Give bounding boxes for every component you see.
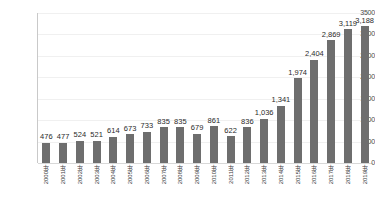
x-label-slot: 2007年 [155, 165, 172, 205]
bar-slot[interactable]: 2,869 [323, 13, 340, 163]
x-label-slot: 2011年 [222, 165, 239, 205]
x-label-slot: 2005年 [122, 165, 139, 205]
bar-slot[interactable]: 673 [122, 13, 139, 163]
x-axis-tick-label: 2007年 [161, 165, 167, 184]
x-label-slot: 2008年 [172, 165, 189, 205]
x-label-slot: 2004年 [105, 165, 122, 205]
x-axis-tick-label: 2013年 [261, 165, 267, 184]
x-label-slot: 2006年 [139, 165, 156, 205]
x-label-slot: 2014年 [273, 165, 290, 205]
x-label-slot: 2010年 [206, 165, 223, 205]
bar[interactable] [42, 143, 50, 163]
bar-value-label: 679 [191, 124, 204, 132]
x-axis-tick-label: 2016年 [311, 165, 317, 184]
bar[interactable] [227, 136, 235, 163]
x-axis-tick-label: 2008年 [177, 165, 183, 184]
x-label-slot: 2012年 [239, 165, 256, 205]
bar-slot[interactable]: 477 [55, 13, 72, 163]
bar[interactable] [327, 40, 335, 163]
bar-value-label: 476 [40, 133, 53, 141]
bar[interactable] [243, 127, 251, 163]
bar-value-label: 2,404 [305, 50, 324, 58]
bar[interactable] [344, 29, 352, 163]
bar[interactable] [277, 106, 285, 163]
bar-value-label: 3,188 [355, 17, 374, 25]
x-axis-tick-label: 2011年 [228, 165, 234, 184]
x-label-slot: 2001年 [55, 165, 72, 205]
bar-value-label: 2,869 [322, 31, 341, 39]
bar-value-label: 614 [107, 127, 120, 135]
bar-slot[interactable]: 835 [155, 13, 172, 163]
bar-slot[interactable]: 1,036 [256, 13, 273, 163]
bar-slot[interactable]: 2,404 [306, 13, 323, 163]
x-label-slot: 2003年 [88, 165, 105, 205]
bar-value-label: 524 [74, 131, 87, 139]
bar-slot[interactable]: 1,974 [289, 13, 306, 163]
x-label-slot: 2000年 [38, 165, 55, 205]
x-axis-tick-label: 2000年 [43, 165, 49, 184]
x-label-slot: 2015年 [289, 165, 306, 205]
bar[interactable] [193, 134, 201, 163]
bar[interactable] [260, 119, 268, 163]
bar-value-label: 836 [241, 118, 254, 126]
bar[interactable] [176, 127, 184, 163]
x-label-slot: 2019年 [356, 165, 373, 205]
bar-value-label: 835 [174, 118, 187, 126]
bar-slot[interactable]: 1,341 [273, 13, 290, 163]
bar-value-label: 521 [90, 131, 103, 139]
bar-slot[interactable]: 614 [105, 13, 122, 163]
bar[interactable] [76, 141, 84, 163]
x-axis-tick-label: 2019年 [362, 165, 368, 184]
bar-slot[interactable]: 3,119 [340, 13, 357, 163]
bar[interactable] [143, 132, 151, 163]
bar-value-label: 1,974 [288, 69, 307, 77]
bar-slot[interactable]: 836 [239, 13, 256, 163]
bar-value-label: 477 [57, 133, 70, 141]
x-axis-tick-label: 2006年 [144, 165, 150, 184]
x-axis-tick-label: 2005年 [127, 165, 133, 184]
x-label-slot: 2016年 [306, 165, 323, 205]
bar-slot[interactable]: 679 [189, 13, 206, 163]
x-label-slot: 2002年 [72, 165, 89, 205]
bar[interactable] [210, 126, 218, 163]
bar-chart: 0500100015002000250030003500 47647752452… [0, 0, 375, 205]
bar-slot[interactable]: 622 [222, 13, 239, 163]
x-axis-tick-label: 2010年 [211, 165, 217, 184]
bar-slot[interactable]: 861 [206, 13, 223, 163]
x-axis-tick-label: 2003年 [94, 165, 100, 184]
x-axis-tick-label: 2015年 [295, 165, 301, 184]
bar[interactable] [109, 137, 117, 163]
bar-slot[interactable]: 524 [72, 13, 89, 163]
x-label-slot: 2009年 [189, 165, 206, 205]
bar-slot[interactable]: 476 [38, 13, 55, 163]
bar-value-label: 861 [208, 117, 221, 125]
x-label-slot: 2017年 [323, 165, 340, 205]
bar-value-label: 1,341 [271, 96, 290, 104]
bar-value-label: 835 [157, 118, 170, 126]
bar-value-label: 733 [141, 122, 154, 130]
x-label-slot: 2018年 [340, 165, 357, 205]
x-axis-tick-label: 2009年 [194, 165, 200, 184]
bar[interactable] [310, 60, 318, 163]
bar-slot[interactable]: 521 [88, 13, 105, 163]
bar[interactable] [361, 26, 369, 163]
gridline [38, 163, 373, 164]
bar[interactable] [59, 143, 67, 163]
bar-slot[interactable]: 733 [139, 13, 156, 163]
bar-slot[interactable]: 3,188 [356, 13, 373, 163]
x-axis-tick-label: 2017年 [328, 165, 334, 184]
bar-value-label: 673 [124, 125, 137, 133]
x-axis-tick-label: 2004年 [110, 165, 116, 184]
bar-value-label: 622 [224, 127, 237, 135]
plot-area: 4764775245216146737338358356798616228361… [38, 13, 373, 163]
bar[interactable] [126, 134, 134, 163]
bar-value-label: 3,119 [339, 20, 357, 28]
x-axis-tick-label: 2012年 [244, 165, 250, 184]
bar[interactable] [160, 127, 168, 163]
x-axis-tick-label: 2018年 [345, 165, 351, 184]
bar[interactable] [294, 78, 302, 163]
x-axis-tick-label: 2002年 [77, 165, 83, 184]
x-axis-tick-label: 2014年 [278, 165, 284, 184]
bar[interactable] [93, 141, 101, 163]
bar-slot[interactable]: 835 [172, 13, 189, 163]
